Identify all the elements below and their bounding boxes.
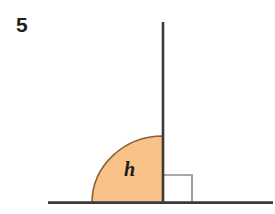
shape-height-label: h <box>124 158 135 180</box>
right-angle-marker-icon <box>164 175 192 203</box>
geometry-diagram <box>0 0 275 214</box>
figure-container: 5 h <box>0 0 275 214</box>
